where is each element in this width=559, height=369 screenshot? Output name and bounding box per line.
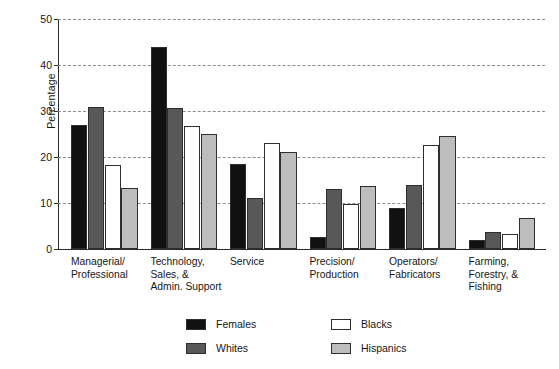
x-axis-label-precision-production: Precision/ Production	[310, 256, 388, 281]
bar-farming-forestry-fishing-whites	[485, 232, 501, 249]
legend-label: Whites	[216, 342, 248, 354]
y-tick-label: 40	[40, 59, 52, 71]
x-axis-label-farming-forestry-fishing: Farming, Forestry, & Fishing	[469, 256, 547, 294]
legend-label: Females	[216, 318, 256, 330]
dark-gray-swatch	[186, 343, 206, 354]
white-swatch	[331, 319, 351, 330]
gridline	[58, 65, 545, 66]
plot-area: 01020304050	[58, 19, 545, 249]
bar-managerial-professional-hispanics	[121, 188, 137, 249]
x-axis-label-operators-fabricators: Operators/ Fabricators	[389, 256, 467, 281]
bar-operators-fabricators-hispanics	[439, 136, 455, 249]
y-tick-mark	[54, 203, 58, 204]
bar-operators-fabricators-blacks	[423, 145, 439, 249]
bar-technology-sales-admin-support-females	[151, 47, 167, 249]
y-tick-label: 20	[40, 151, 52, 163]
x-axis-line	[58, 249, 546, 250]
bar-precision-production-hispanics	[360, 186, 376, 249]
bar-chart-figure: Percentage 01020304050 Managerial/ Profe…	[0, 0, 559, 369]
bar-precision-production-whites	[326, 189, 342, 249]
black-swatch	[186, 319, 206, 330]
legend-label: Hispanics	[361, 342, 407, 354]
legend-item-blacks[interactable]: Blacks	[331, 318, 392, 330]
legend-label: Blacks	[361, 318, 392, 330]
bar-operators-fabricators-females	[389, 208, 405, 249]
bar-farming-forestry-fishing-blacks	[502, 234, 518, 249]
y-tick-mark	[54, 157, 58, 158]
y-tick-mark	[54, 249, 58, 250]
x-axis-label-technology-sales-admin-support: Technology, Sales, & Admin. Support	[151, 256, 229, 294]
y-tick-mark	[54, 65, 58, 66]
y-tick-label: 30	[40, 105, 52, 117]
bar-service-hispanics	[280, 152, 296, 249]
bar-farming-forestry-fishing-females	[469, 240, 485, 249]
bar-managerial-professional-blacks	[105, 165, 121, 249]
y-tick-mark	[54, 111, 58, 112]
bar-technology-sales-admin-support-blacks	[184, 126, 200, 249]
chart-legend: FemalesWhitesBlacksHispanics	[186, 318, 446, 364]
y-tick-label: 50	[40, 13, 52, 25]
bar-managerial-professional-females	[71, 125, 87, 249]
bar-service-females	[230, 164, 246, 249]
bar-farming-forestry-fishing-hispanics	[519, 218, 535, 249]
y-axis-line	[58, 19, 59, 250]
bar-service-blacks	[264, 143, 280, 249]
x-axis-label-managerial-professional: Managerial/ Professional	[71, 256, 149, 281]
bar-precision-production-blacks	[343, 204, 359, 249]
y-tick-mark	[54, 19, 58, 20]
gridline	[58, 111, 545, 112]
x-axis-label-service: Service	[230, 256, 308, 269]
bar-managerial-professional-whites	[88, 107, 104, 249]
y-tick-label: 10	[40, 197, 52, 209]
bar-service-whites	[247, 198, 263, 249]
gridline	[58, 19, 545, 20]
bar-technology-sales-admin-support-whites	[167, 108, 183, 249]
bar-precision-production-females	[310, 237, 326, 249]
y-tick-label: 0	[46, 243, 52, 255]
legend-item-whites[interactable]: Whites	[186, 342, 248, 354]
gridline	[58, 157, 545, 158]
legend-item-hispanics[interactable]: Hispanics	[331, 342, 407, 354]
bar-technology-sales-admin-support-hispanics	[201, 134, 217, 249]
legend-item-females[interactable]: Females	[186, 318, 256, 330]
light-gray-swatch	[331, 343, 351, 354]
bar-operators-fabricators-whites	[406, 185, 422, 249]
